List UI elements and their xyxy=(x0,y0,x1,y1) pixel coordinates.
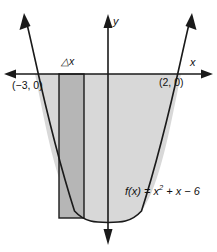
parabola-left-arrowhead xyxy=(20,13,31,30)
x-axis-right-arrowhead xyxy=(201,70,213,79)
y-axis-top-arrowhead xyxy=(104,14,113,28)
root-left-label: (−3, 0) xyxy=(12,80,43,91)
graph-figure: x y (−3, 0) (2, 0) △x f(x) = x2 + x − 6 xyxy=(0,0,217,252)
root-right-label: (2, 0) xyxy=(159,77,184,88)
graph-canvas xyxy=(0,0,217,252)
parabola-right-arrowhead xyxy=(186,13,197,30)
x-axis-left-arrowhead xyxy=(4,70,16,79)
y-axis-label: y xyxy=(113,16,119,27)
function-equation-suffix: + x − 6 xyxy=(163,185,200,197)
function-equation-label: f(x) = x2 + x − 6 xyxy=(125,186,200,197)
delta-x-label: △x xyxy=(61,56,74,67)
representative-rectangle xyxy=(59,74,84,218)
x-axis-label: x xyxy=(190,57,196,68)
y-axis-bottom-arrowhead xyxy=(104,229,113,245)
function-equation-prefix: f(x) = x xyxy=(125,185,159,197)
